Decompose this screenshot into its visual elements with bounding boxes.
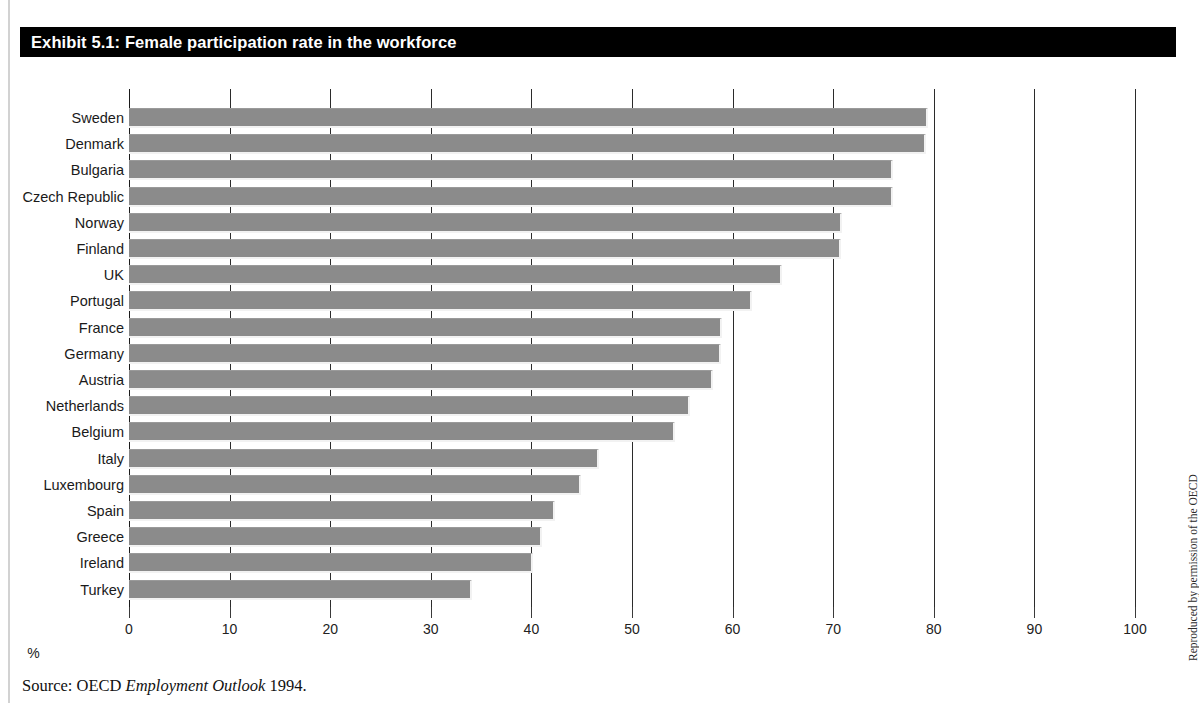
x-tick-label-10: 10	[222, 621, 238, 637]
chart-row: Sweden	[0, 105, 1189, 131]
chart-row: Luxembourg	[0, 472, 1189, 498]
category-label: Turkey	[0, 577, 124, 603]
bar	[129, 187, 893, 207]
x-tick-label-100: 100	[1123, 621, 1146, 637]
category-label: Belgium	[0, 419, 124, 445]
chart-row: Italy	[0, 446, 1189, 472]
reproduction-credit: Reproduced by permission of the OECD	[1187, 431, 1199, 661]
category-label: Finland	[0, 236, 124, 262]
bar	[129, 134, 926, 154]
source-prefix: Source: OECD	[22, 676, 126, 695]
bar	[129, 580, 472, 600]
x-tick-30	[431, 607, 432, 618]
source-publication: Employment Outlook	[126, 676, 266, 695]
source-note: Source: OECD Employment Outlook 1994.	[22, 676, 307, 696]
chart-row: Norway	[0, 210, 1189, 236]
bar	[129, 239, 841, 259]
bar	[129, 396, 690, 416]
bar	[129, 318, 722, 338]
bar	[129, 449, 599, 469]
category-label: Denmark	[0, 131, 124, 157]
category-label: Bulgaria	[0, 157, 124, 183]
bar	[129, 213, 842, 233]
x-tick-70	[833, 607, 834, 618]
category-label: Ireland	[0, 550, 124, 576]
category-label: Italy	[0, 446, 124, 472]
x-tick-label-40: 40	[524, 621, 540, 637]
bar	[129, 501, 555, 521]
x-tick-60	[733, 607, 734, 618]
category-label: Portugal	[0, 288, 124, 314]
chart-row: Denmark	[0, 131, 1189, 157]
x-tick-label-0: 0	[125, 621, 133, 637]
bar	[129, 108, 928, 128]
x-tick-80	[934, 607, 935, 618]
x-tick-10	[230, 607, 231, 618]
x-tick-label-70: 70	[825, 621, 841, 637]
bar	[129, 291, 752, 311]
x-tick-20	[330, 607, 331, 618]
chart-row: Spain	[0, 498, 1189, 524]
x-tick-label-60: 60	[725, 621, 741, 637]
chart-row: France	[0, 315, 1189, 341]
source-suffix: 1994.	[265, 676, 306, 695]
category-label: Netherlands	[0, 393, 124, 419]
x-tick-label-80: 80	[926, 621, 942, 637]
chart-row: Austria	[0, 367, 1189, 393]
bar	[129, 344, 721, 364]
chart-row: Turkey	[0, 577, 1189, 603]
category-label: France	[0, 315, 124, 341]
chart-row: Bulgaria	[0, 157, 1189, 183]
category-label: Greece	[0, 524, 124, 550]
x-tick-90	[1034, 607, 1035, 618]
bar	[129, 370, 713, 390]
chart-row: Belgium	[0, 419, 1189, 445]
category-label: Germany	[0, 341, 124, 367]
category-label: Norway	[0, 210, 124, 236]
category-label: Austria	[0, 367, 124, 393]
x-axis-label-text: %	[27, 645, 39, 661]
bar	[129, 475, 581, 495]
x-tick-label-50: 50	[624, 621, 640, 637]
x-tick-40	[531, 607, 532, 618]
category-label: Czech Republic	[0, 184, 124, 210]
bar	[129, 527, 542, 547]
x-tick-label-30: 30	[423, 621, 439, 637]
x-tick-label-90: 90	[1027, 621, 1043, 637]
chart-row: Germany	[0, 341, 1189, 367]
bar	[129, 422, 675, 442]
bar	[129, 265, 782, 285]
x-tick-0	[129, 607, 130, 618]
chart-row: Czech Republic	[0, 184, 1189, 210]
category-label: Luxembourg	[0, 472, 124, 498]
chart-row: Finland	[0, 236, 1189, 262]
category-label: Sweden	[0, 105, 124, 131]
chart-row: Portugal	[0, 288, 1189, 314]
bar	[129, 553, 533, 573]
x-tick-50	[632, 607, 633, 618]
x-tick-100	[1135, 607, 1136, 618]
bar	[129, 160, 893, 180]
chart-row: Ireland	[0, 550, 1189, 576]
chart-row: Netherlands	[0, 393, 1189, 419]
chart-row: UK	[0, 262, 1189, 288]
x-tick-label-20: 20	[322, 621, 338, 637]
category-label: UK	[0, 262, 124, 288]
x-axis-label: %	[0, 645, 1189, 661]
category-label: Spain	[0, 498, 124, 524]
chart-row: Greece	[0, 524, 1189, 550]
